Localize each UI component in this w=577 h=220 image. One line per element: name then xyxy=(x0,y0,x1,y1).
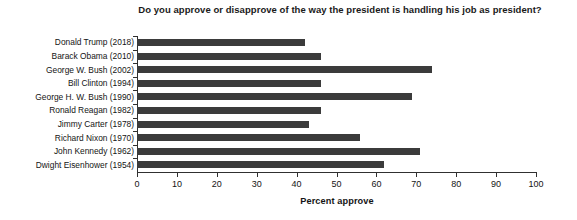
x-tick-label: 90 xyxy=(476,179,516,189)
x-tick-mark xyxy=(376,173,377,177)
x-tick-mark xyxy=(337,173,338,177)
bar-row xyxy=(137,90,536,104)
x-tick-mark xyxy=(536,173,537,177)
bar xyxy=(137,93,412,100)
bar xyxy=(137,134,360,141)
x-tick-mark xyxy=(297,173,298,177)
x-tick-label: 60 xyxy=(356,179,396,189)
x-axis-title: Percent approve xyxy=(137,196,537,206)
x-tick-label: 30 xyxy=(237,179,277,189)
x-tick-label: 10 xyxy=(157,179,197,189)
x-tick-mark xyxy=(137,173,138,177)
bar xyxy=(137,107,321,114)
x-tick-label: 100 xyxy=(516,179,556,189)
x-tick-mark xyxy=(416,173,417,177)
bar xyxy=(137,161,384,168)
category-label: Bill Clinton (1994) xyxy=(4,78,134,88)
bar xyxy=(137,80,321,87)
bar xyxy=(137,148,420,155)
bar xyxy=(137,121,309,128)
plot-area xyxy=(137,36,536,172)
y-tick-mark xyxy=(133,104,137,105)
y-tick-mark xyxy=(133,145,137,146)
bar-row xyxy=(137,131,536,145)
bar xyxy=(137,53,321,60)
x-tick-mark xyxy=(177,173,178,177)
y-tick-mark xyxy=(133,77,137,78)
x-tick-label: 50 xyxy=(317,179,357,189)
category-label: Dwight Eisenhower (1954) xyxy=(4,160,134,170)
bar-row xyxy=(137,77,536,91)
y-tick-mark xyxy=(133,118,137,119)
y-tick-mark xyxy=(133,63,137,64)
category-label: Ronald Reagan (1982) xyxy=(4,105,134,115)
bar-row xyxy=(137,63,536,77)
bar xyxy=(137,39,305,46)
category-label: Richard Nixon (1970) xyxy=(4,133,134,143)
category-label: George W. Bush (2002) xyxy=(4,65,134,75)
bar-row xyxy=(137,145,536,159)
category-label: Jimmy Carter (1978) xyxy=(4,119,134,129)
y-tick-mark xyxy=(133,90,137,91)
x-tick-mark xyxy=(257,173,258,177)
x-tick-mark xyxy=(496,173,497,177)
category-axis-labels: Donald Trump (2018)Barack Obama (2010)Ge… xyxy=(2,36,134,172)
x-tick-label: 0 xyxy=(117,179,157,189)
y-tick-mark xyxy=(133,131,137,132)
category-label: Donald Trump (2018) xyxy=(4,37,134,47)
x-tick-label: 70 xyxy=(396,179,436,189)
y-tick-mark xyxy=(133,50,137,51)
category-label: Barack Obama (2010) xyxy=(4,51,134,61)
x-tick-mark xyxy=(217,173,218,177)
x-tick-label: 20 xyxy=(197,179,237,189)
x-tick-mark xyxy=(456,173,457,177)
bar-row xyxy=(137,118,536,132)
category-label: George H. W. Bush (1990) xyxy=(4,92,134,102)
bar-row xyxy=(137,104,536,118)
chart-title: Do you approve or disapprove of the way … xyxy=(118,3,562,16)
bar-row xyxy=(137,36,536,50)
bar xyxy=(137,66,432,73)
bar-chart: Do you approve or disapprove of the way … xyxy=(0,0,577,220)
category-label: John Kennedy (1962) xyxy=(4,146,134,156)
x-tick-label: 40 xyxy=(277,179,317,189)
bar-row xyxy=(137,158,536,172)
y-tick-mark xyxy=(133,158,137,159)
y-tick-mark xyxy=(133,36,137,37)
bar-row xyxy=(137,50,536,64)
x-tick-label: 80 xyxy=(436,179,476,189)
